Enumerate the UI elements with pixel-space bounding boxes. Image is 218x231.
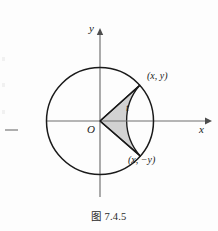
point-label-upper: (x, y) [147, 71, 168, 81]
figure-container: y x O t (x, y) (x, −y) 图 7.4.5 [0, 0, 218, 231]
x-axis-label: x [199, 124, 204, 135]
central-angle-label: t [126, 103, 129, 114]
point-label-lower: (x, −y) [128, 155, 155, 165]
origin-label: O [87, 124, 95, 135]
unit-circle-diagram [0, 0, 218, 231]
x-axis-arrowhead [205, 118, 212, 125]
y-axis-label: y [89, 23, 94, 34]
figure-caption: 图 7.4.5 [0, 208, 218, 223]
y-axis-arrowhead [97, 28, 103, 35]
